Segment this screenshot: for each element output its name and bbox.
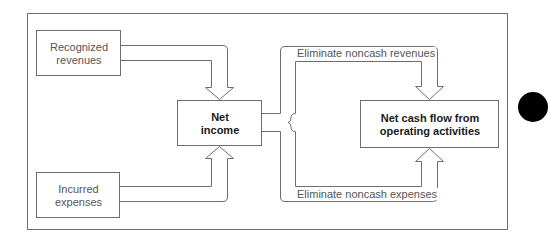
net-income-line1: Net (201, 111, 240, 124)
net-cash-flow-label: Net cash flow from operating activities (361, 101, 499, 148)
recognized-revenues-line2: revenues (50, 54, 108, 67)
net-income-line2: income (201, 124, 240, 137)
net-cash-flow-line2: operating activities (380, 125, 480, 138)
eliminate-noncash-revenues-label: Eliminate noncash revenues (296, 47, 436, 59)
net-income-label: Net income (178, 101, 262, 146)
eliminate-noncash-expenses-label: Eliminate noncash expenses (296, 188, 438, 200)
brace (288, 114, 296, 132)
incurred-expenses-label: Incurred expenses (37, 173, 120, 218)
revenues-to-income-arrow (121, 46, 234, 100)
recognized-revenues-line1: Recognized (50, 41, 108, 54)
section-tab-marker (518, 92, 548, 122)
incurred-expenses-line1: Incurred (55, 183, 102, 196)
incurred-expenses-line2: expenses (55, 196, 102, 209)
expenses-to-income-arrow (120, 147, 234, 202)
net-cash-flow-line1: Net cash flow from (380, 112, 480, 125)
recognized-revenues-label: Recognized revenues (37, 31, 121, 76)
